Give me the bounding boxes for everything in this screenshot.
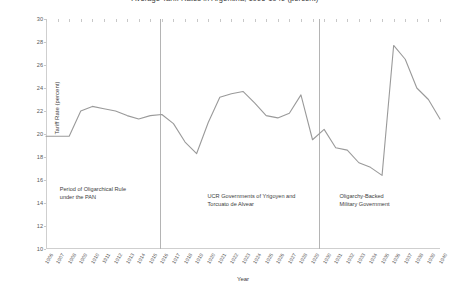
x-tick-label: 1906 [43,252,54,265]
x-tick-label: 1935 [379,252,390,265]
plot-area: 1012141618202224262830 19061907190819091… [46,19,440,249]
x-tick-label: 1927 [286,252,297,265]
x-tick-label: 1907 [55,252,66,265]
x-tick-label: 1924 [252,252,263,265]
y-tick-label: 30 [37,16,43,22]
x-tick-label: 1914 [136,252,147,265]
x-tick-label: 1923 [240,252,251,265]
chart-title: Average Tariff Rates in Argentina, 1906-… [0,0,450,3]
y-tick-label: 16 [37,177,43,183]
x-tick-label: 1940 [437,252,448,265]
x-tick-label: 1921 [217,252,228,265]
x-tick-label: 1908 [66,252,77,265]
x-tick-label: 1910 [89,252,100,265]
y-axis-label: Tariff Rate (percent) [54,63,60,153]
x-tick-label: 1917 [170,252,181,265]
x-tick-label: 1934 [367,252,378,265]
y-tick-label: 22 [37,108,43,114]
y-tick-label: 12 [37,223,43,229]
x-tick-label: 1912 [112,252,123,265]
x-axis-label: Year [46,276,440,282]
x-tick-label: 1922 [228,252,239,265]
chart-figure: Average Tariff Rates in Argentina, 1906-… [0,0,450,296]
x-tick-label: 1931 [333,252,344,265]
x-tick-label: 1939 [425,252,436,265]
y-tick-mark [44,249,47,250]
x-tick-label: 1916 [159,252,170,265]
y-tick-label: 26 [37,62,43,68]
x-tick-label: 1909 [78,252,89,265]
x-tick-label: 1929 [309,252,320,265]
x-tick-label: 1918 [182,252,193,265]
y-tick-label: 14 [37,200,43,206]
y-tick-label: 24 [37,85,43,91]
y-tick-label: 10 [37,246,43,252]
x-tick-label: 1932 [344,252,355,265]
x-tick-label: 1925 [263,252,274,265]
x-tick-label: 1926 [275,252,286,265]
y-tick-label: 20 [37,131,43,137]
y-tick-label: 28 [37,39,43,45]
x-tick-label: 1913 [124,252,135,265]
x-tick-label: 1920 [205,252,216,265]
y-tick-label: 18 [37,154,43,160]
x-tick-label: 1919 [194,252,205,265]
x-tick-label: 1928 [298,252,309,265]
x-tick-mark [440,19,441,22]
x-tick-label: 1933 [356,252,367,265]
x-tick-label: 1915 [147,252,158,265]
x-tick-label: 1938 [414,252,425,265]
tariff-rate-line [46,19,440,249]
x-tick-label: 1936 [391,252,402,265]
x-tick-label: 1911 [101,252,112,264]
x-tick-label: 1937 [402,252,413,265]
x-tick-label: 1930 [321,252,332,265]
